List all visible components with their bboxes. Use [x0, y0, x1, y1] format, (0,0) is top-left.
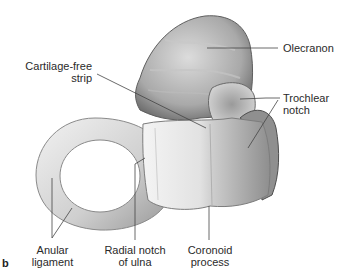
label-olecranon: Olecranon — [283, 42, 334, 54]
panel-letter: b — [2, 257, 9, 269]
label-cartilage-free-strip: Cartilage-free strip — [22, 60, 92, 84]
articular-face-shape — [143, 118, 270, 209]
label-coronoid-process: Coronoid process — [180, 244, 240, 268]
anatomical-figure: Olecranon Cartilage-free strip Trochlear… — [0, 0, 345, 280]
label-radial-notch-of-ulna: Radial notch of ulna — [100, 244, 170, 268]
label-trochlear-notch: Trochlear notch — [283, 92, 329, 116]
label-anular-ligament: Anular ligament — [25, 244, 80, 268]
